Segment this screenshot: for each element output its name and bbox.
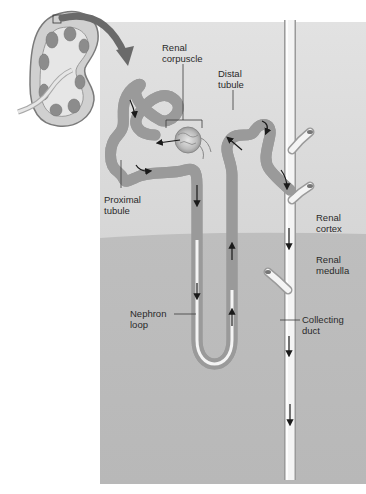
nephron-diagram: Renal corpuscle Distal tubule Proximal t… bbox=[0, 0, 366, 494]
renal-corpuscle-label: Renal corpuscle bbox=[162, 42, 203, 64]
renal-medulla-label: Renal medulla bbox=[316, 254, 349, 276]
renal-cortex-label: Renal cortex bbox=[316, 212, 342, 234]
proximal-tubule-label: Proximal tubule bbox=[104, 194, 141, 216]
nephron-loop-label: Nephron loop bbox=[130, 308, 166, 330]
distal-tubule-label: Distal tubule bbox=[218, 68, 244, 90]
diagram-artwork bbox=[0, 0, 366, 494]
collecting-duct-label: Collecting duct bbox=[302, 314, 344, 336]
